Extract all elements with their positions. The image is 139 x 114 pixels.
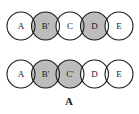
chain-diagram: A B' C D E A [0, 0, 139, 114]
figure-caption: A [65, 95, 73, 107]
bottom-node-label-2: B' [42, 69, 50, 79]
top-node-label-4: D [91, 21, 98, 31]
bottom-chain-row: A B' C' D E [7, 60, 133, 88]
bottom-node-label-1: A [18, 69, 25, 79]
top-node-label-1: A [18, 21, 25, 31]
top-chain-row: A B' C D E [7, 12, 133, 40]
top-node-label-5: E [116, 21, 122, 31]
bottom-node-label-4: D [91, 69, 98, 79]
top-node-label-3: C [67, 21, 73, 31]
bottom-node-label-5: E [116, 69, 122, 79]
bottom-node-label-3: C' [66, 69, 74, 79]
top-node-label-2: B' [42, 21, 50, 31]
figure-container: A B' C D E A [0, 0, 139, 114]
